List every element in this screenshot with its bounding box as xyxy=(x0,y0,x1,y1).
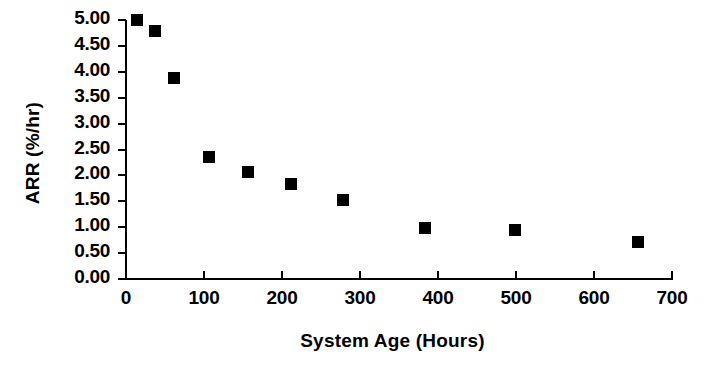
x-tick-label-5: 500 xyxy=(486,287,546,309)
x-axis-title-text: System Age (Hours) xyxy=(300,330,485,352)
y-tick-6 xyxy=(118,123,126,125)
data-point-4 xyxy=(242,166,254,178)
x-tick-4 xyxy=(437,271,439,280)
x-tick-2 xyxy=(281,271,283,280)
y-tick-2 xyxy=(118,226,126,228)
x-tick-label-4: 400 xyxy=(408,287,468,309)
y-tick-5 xyxy=(118,149,126,151)
x-tick-7 xyxy=(671,271,673,280)
y-tick-label-3: 1.50 xyxy=(48,188,110,210)
y-tick-label-1: 0.50 xyxy=(48,240,110,262)
y-tick-label-9: 4.50 xyxy=(48,33,110,55)
x-tick-label-7: 700 xyxy=(642,287,702,309)
y-tick-label-8: 4.00 xyxy=(48,59,110,81)
y-tick-label-5: 2.50 xyxy=(48,137,110,159)
y-tick-label-6: 3.00 xyxy=(48,111,110,133)
x-tick-label-6: 600 xyxy=(564,287,624,309)
data-point-1 xyxy=(149,25,161,37)
data-point-6 xyxy=(337,194,349,206)
y-tick-7 xyxy=(118,97,126,99)
x-axis-title: System Age (Hours) xyxy=(0,330,719,352)
data-point-9 xyxy=(632,236,644,248)
x-tick-1 xyxy=(203,271,205,280)
y-tick-label-4: 2.00 xyxy=(48,162,110,184)
data-point-3 xyxy=(203,151,215,163)
data-point-8 xyxy=(509,224,521,236)
data-point-5 xyxy=(285,178,297,190)
data-point-0 xyxy=(131,14,143,26)
x-tick-5 xyxy=(515,271,517,280)
y-tick-3 xyxy=(118,200,126,202)
y-tick-1 xyxy=(118,252,126,254)
y-axis-title: ARR (%/hr) xyxy=(22,58,44,248)
x-tick-label-0: 0 xyxy=(96,287,156,309)
x-tick-0 xyxy=(125,271,127,280)
x-tick-3 xyxy=(359,271,361,280)
y-tick-9 xyxy=(118,45,126,47)
y-tick-label-7: 3.50 xyxy=(48,85,110,107)
x-tick-label-2: 200 xyxy=(252,287,312,309)
y-tick-label-2: 1.00 xyxy=(48,214,110,236)
y-tick-10 xyxy=(118,19,126,21)
y-tick-8 xyxy=(118,71,126,73)
x-tick-label-1: 100 xyxy=(174,287,234,309)
chart-figure: 0.000.501.001.502.002.503.003.504.004.50… xyxy=(0,0,719,365)
data-point-2 xyxy=(168,72,180,84)
x-tick-6 xyxy=(593,271,595,280)
y-tick-4 xyxy=(118,174,126,176)
y-tick-label-0: 0.00 xyxy=(48,266,110,288)
x-axis-line xyxy=(125,278,673,280)
y-tick-label-10: 5.00 xyxy=(48,7,110,29)
data-point-7 xyxy=(419,222,431,234)
x-tick-label-3: 300 xyxy=(330,287,390,309)
